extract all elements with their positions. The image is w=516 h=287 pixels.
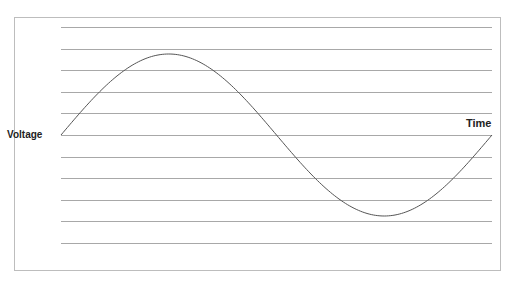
time-axis-label: Time — [466, 117, 491, 129]
voltage-axis-label: Voltage — [7, 129, 42, 140]
sine-wave-diagram — [0, 0, 516, 287]
